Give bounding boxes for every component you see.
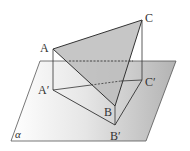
label-plane-alpha: α	[15, 128, 21, 140]
label-A-prime: A′	[38, 83, 50, 97]
label-B: B	[104, 105, 112, 119]
label-A: A	[40, 41, 49, 55]
label-C: C	[145, 11, 153, 25]
label-B-prime: B′	[110, 129, 121, 143]
label-C-prime: C′	[145, 75, 156, 89]
geometry-diagram: A C A′ C′ B B′ α	[0, 0, 190, 151]
